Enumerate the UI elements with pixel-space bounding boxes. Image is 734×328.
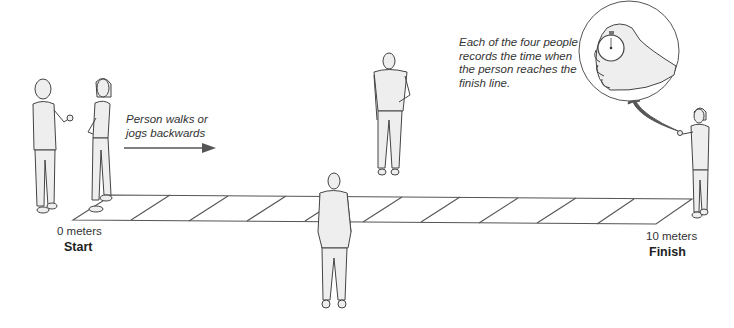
walk-direction-caption: Person walks or jogs backwards — [126, 113, 208, 140]
caption-line: jogs backwards — [126, 127, 208, 141]
finish-distance-label: 10 meters — [646, 230, 697, 242]
finish-label: Finish — [649, 245, 686, 259]
caption-line: the person reaches the — [459, 63, 578, 77]
standing-woman-icon — [678, 108, 710, 218]
direction-arrow-icon — [124, 143, 216, 153]
timers-note-caption: Each of the four people records the time… — [459, 36, 578, 90]
caption-line: finish line. — [459, 77, 578, 91]
caption-line: Each of the four people — [459, 36, 578, 50]
caption-line: records the time when — [459, 50, 578, 64]
standing-man-back-icon — [318, 173, 351, 308]
start-distance-label: 0 meters — [57, 225, 102, 237]
track-icon — [73, 195, 692, 224]
caption-line: Person walks or — [126, 113, 208, 127]
standing-woman-icon — [88, 78, 112, 212]
standing-man-icon — [374, 53, 410, 175]
stopwatch-in-hand-icon — [579, 1, 679, 101]
diagram-canvas — [0, 0, 734, 328]
standing-man-icon — [33, 79, 73, 213]
start-label: Start — [64, 240, 92, 254]
